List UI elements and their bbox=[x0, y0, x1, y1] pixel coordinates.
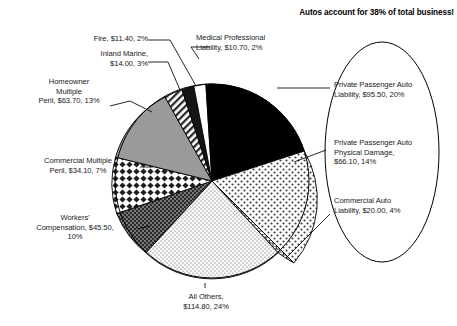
label-commercial-multiple-peril: Commercial Multiple Peril, $34.10, 7% bbox=[16, 156, 140, 175]
label-commercial-auto-liability: Commercial Auto Liability, $20.00, 4% bbox=[334, 196, 450, 215]
leader-line-inland-marine bbox=[148, 62, 180, 90]
label-inland-marine: Inland Marine, $14.00, 3% bbox=[48, 49, 148, 68]
label-all-others: All Others, $114.80, 24% bbox=[150, 292, 262, 311]
label-private-passenger-auto-liability: Private Passenger Auto Liability, $95.50… bbox=[334, 80, 450, 99]
pie-chart-figure: Autos account for 38% of total business! bbox=[0, 0, 457, 326]
label-homeowner-multiple-peril: Homeowner Multiple Peril, $63.70, 13% bbox=[26, 77, 112, 106]
label-private-passenger-auto-physical-damage: Private Passenger Auto Physical Damage, … bbox=[334, 138, 450, 167]
label-workers-compensation: Workers' Compensation, $45.50, 10% bbox=[12, 213, 138, 242]
label-fire: Fire, $11.40, 2% bbox=[38, 34, 148, 44]
label-medical-professional-liability: Medical Professional Liability, $10.70, … bbox=[196, 33, 294, 52]
leader-line-fire bbox=[148, 40, 196, 86]
